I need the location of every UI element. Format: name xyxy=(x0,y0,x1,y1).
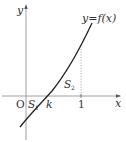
s1-region-label: S 1 xyxy=(28,98,39,111)
svg-text:1: 1 xyxy=(35,104,39,111)
k-label: k xyxy=(46,98,53,111)
function-label: y=f(x) xyxy=(81,12,116,25)
y-axis-label: y xyxy=(16,4,24,17)
origin-label: O xyxy=(16,98,25,110)
svg-text:2: 2 xyxy=(71,84,75,91)
y-axis-arrow-icon xyxy=(24,4,27,9)
s2-region-label: S 2 xyxy=(64,78,75,91)
x-axis-label: x xyxy=(115,97,122,110)
function-curve xyxy=(20,23,92,127)
one-label: 1 xyxy=(78,98,85,110)
function-graph: y x O k 1 y=f(x) S 1 S 2 xyxy=(0,0,126,142)
